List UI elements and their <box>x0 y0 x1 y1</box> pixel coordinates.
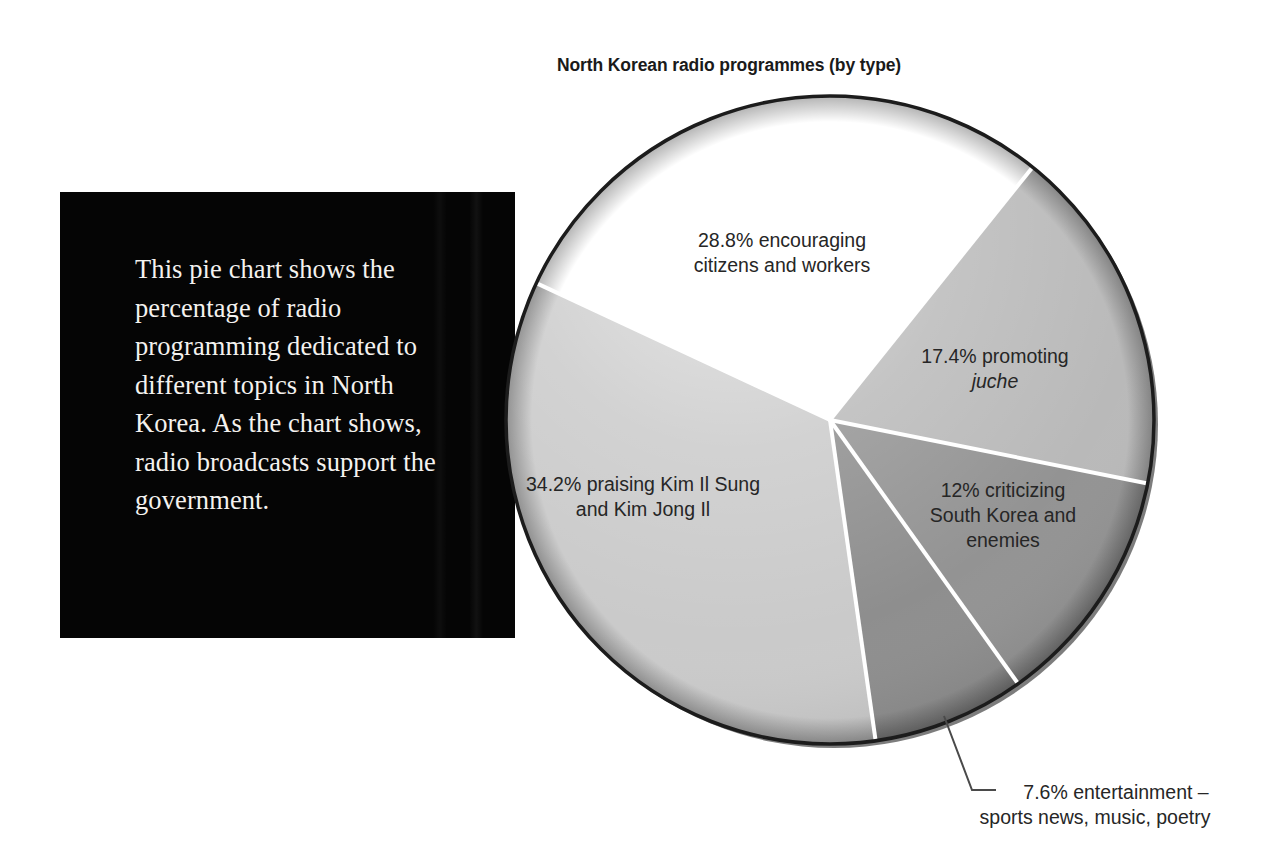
slice-label-encouraging-line1: 28.8% encouraging <box>612 228 952 253</box>
slice-label-juche: 17.4% promoting juche <box>880 344 1110 394</box>
slice-label-praising-line1: 34.2% praising Kim Il Sung <box>448 472 838 497</box>
slice-label-juche-line2: juche <box>880 369 1110 394</box>
slice-label-encouraging: 28.8% encouraging citizens and workers <box>612 228 952 278</box>
slice-label-praising: 34.2% praising Kim Il Sung and Kim Jong … <box>448 472 838 522</box>
slice-label-criticizing-line2: South Korea and <box>888 503 1118 528</box>
pie-chart-svg <box>0 0 1268 868</box>
leader-line-entertainment <box>944 716 996 790</box>
slice-label-entertainment: 7.6% entertainment – sports news, music,… <box>940 780 1250 830</box>
slice-label-criticizing-line1: 12% criticizing <box>888 478 1118 503</box>
slice-label-juche-term: juche <box>972 370 1019 392</box>
slice-label-juche-line1: 17.4% promoting <box>880 344 1110 369</box>
slice-label-encouraging-line2: citizens and workers <box>612 253 952 278</box>
slice-label-entertainment-line2: sports news, music, poetry <box>940 805 1250 830</box>
pie-chart <box>0 0 1268 868</box>
slice-label-praising-line2: and Kim Jong Il <box>448 497 838 522</box>
slice-label-entertainment-line1: 7.6% entertainment – <box>940 780 1250 805</box>
slice-label-criticizing-line3: enemies <box>888 528 1118 553</box>
slice-label-criticizing: 12% criticizing South Korea and enemies <box>888 478 1118 553</box>
